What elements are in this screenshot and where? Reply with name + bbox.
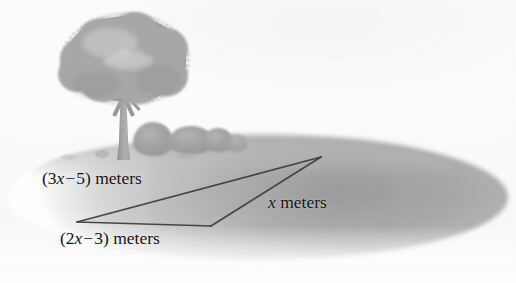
figure-canvas: (3x−5) meters (2x−3) meters x meters <box>0 0 516 283</box>
label-side-right: x meters <box>268 194 327 212</box>
label-bottom-unit: meters <box>113 228 160 248</box>
label-top-coefficient: 3 <box>48 168 57 188</box>
label-bottom-constant: 3 <box>94 228 103 248</box>
label-side-top: (3x−5) meters <box>42 170 142 188</box>
label-bottom-operator: − <box>82 228 94 248</box>
label-bottom-close-paren: ) <box>103 228 109 248</box>
label-side-bottom: (2x−3) meters <box>60 230 160 248</box>
label-right-variable: x <box>268 192 276 212</box>
label-top-constant: 5 <box>76 168 85 188</box>
label-top-unit: meters <box>95 168 142 188</box>
label-top-close-paren: ) <box>85 168 91 188</box>
label-bottom-coefficient: 2 <box>66 228 75 248</box>
label-right-unit: meters <box>280 192 327 212</box>
label-top-operator: − <box>64 168 76 188</box>
